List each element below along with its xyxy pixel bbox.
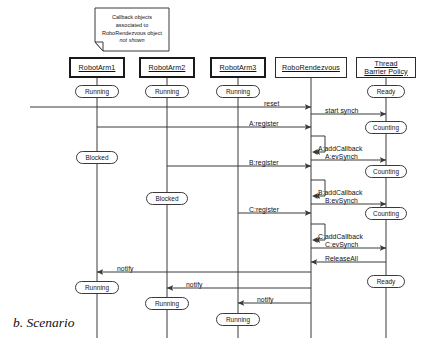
state-label: Running (155, 300, 179, 307)
sequence-diagram-figure: Callback objects associated to RoboRende… (0, 0, 431, 353)
note-line-1: Callback objects (112, 14, 152, 22)
message-label-m10: C:addCallback (318, 233, 363, 240)
message-label-m06: B:register (249, 159, 279, 166)
state-label: Counting (373, 210, 399, 217)
diagram-canvas (0, 0, 431, 353)
state-label: Blocked (85, 154, 108, 161)
lifeline-header-rendez: RoboRendezvous (275, 57, 347, 78)
lifeline-header-tbp: Thread Barrier Policy (356, 57, 416, 78)
lifeline-header-label: RobotArm2 (149, 64, 186, 72)
message-label-m04: A:addCallback (318, 145, 362, 152)
lifeline-header-arm3: RobotArm3 (210, 57, 266, 78)
state-running-arm3: Running (216, 313, 260, 326)
message-label-m01: reset (264, 100, 279, 107)
lifeline-header-label: Thread Barrier Policy (364, 60, 407, 75)
message-label-m14: notify (186, 281, 203, 288)
message-label-m08: B:evSynch (325, 197, 358, 204)
state-label: Running (226, 316, 250, 323)
state-counting-tbp: Counting (365, 121, 407, 134)
note-line-2: associated to (116, 22, 148, 30)
message-label-m03: A:register (249, 120, 279, 127)
message-label-m09: C:register (249, 206, 279, 213)
message-arrows (30, 107, 386, 303)
message-label-m12: ReleaseAll (325, 255, 358, 262)
note-line-3: RoboRendezvous object (102, 30, 162, 38)
state-counting-tbp: Counting (365, 207, 407, 220)
state-running-arm1: Running (75, 85, 119, 98)
state-label: Running (155, 88, 179, 95)
lifeline-header-label: RoboRendezvous (282, 64, 340, 72)
message-label-m05: A:evSynch (325, 153, 358, 160)
state-ready-tbp: Ready (367, 275, 405, 288)
message-label-m13: notify (117, 265, 134, 272)
state-label: Running (85, 88, 109, 95)
lifeline-lines (97, 78, 386, 338)
state-label: Counting (373, 124, 399, 131)
lifeline-header-label: RobotArm1 (79, 64, 116, 72)
lifeline-header-arm2: RobotArm2 (139, 57, 195, 78)
message-label-m07: B:addCallback (318, 189, 362, 196)
state-counting-tbp: Counting (365, 165, 407, 178)
state-label: Ready (377, 278, 396, 285)
state-running-arm2: Running (145, 85, 189, 98)
state-label: Running (85, 284, 109, 291)
state-blocked-arm1: Blocked (76, 151, 118, 164)
state-label: Ready (377, 88, 396, 95)
lifeline-header-arm1: RobotArm1 (69, 57, 125, 78)
state-blocked-arm2: Blocked (146, 192, 188, 205)
state-label: Counting (373, 168, 399, 175)
note-callback-objects: Callback objects associated to RoboRende… (95, 8, 169, 51)
state-running-arm1: Running (75, 281, 119, 294)
lifeline-header-label: RobotArm3 (220, 64, 257, 72)
state-label: Blocked (155, 195, 178, 202)
figure-caption: b. Scenario (13, 315, 75, 331)
state-running-arm3: Running (216, 85, 260, 98)
state-running-arm2: Running (145, 297, 189, 310)
note-line-4: not shown (119, 37, 144, 45)
state-ready-tbp: Ready (367, 85, 405, 98)
message-label-m11: C:evSynch (325, 241, 358, 248)
message-label-m02: start synch (325, 107, 358, 114)
message-label-m15: notify (257, 296, 274, 303)
state-label: Running (226, 88, 250, 95)
